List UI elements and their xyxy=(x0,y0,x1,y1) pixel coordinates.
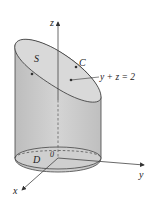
plane-equation-label: y + z = 2 xyxy=(99,72,135,82)
point-on-surface xyxy=(31,73,34,76)
z-axis-label: z xyxy=(49,17,54,28)
origin-label: 0 xyxy=(50,150,54,159)
surface-label-s: S xyxy=(34,53,39,64)
region-label-d: D xyxy=(32,154,41,165)
diagram-canvas: z y x S C D 0 y + z = 2 xyxy=(0,0,154,206)
y-axis-label: y xyxy=(138,169,144,180)
point-on-curve xyxy=(75,66,78,69)
curve-label-c: C xyxy=(79,57,86,68)
x-axis-label: x xyxy=(12,185,18,196)
